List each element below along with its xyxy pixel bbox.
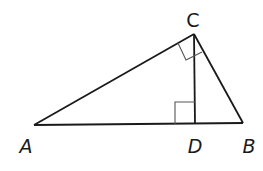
segment-ab — [34, 123, 243, 125]
segment-ac — [34, 34, 194, 125]
vertex-label-c: C — [186, 11, 199, 30]
right-angle-marker-c — [178, 43, 202, 60]
right-angle-marker-d — [175, 102, 195, 124]
triangle-diagram — [0, 0, 263, 171]
vertex-label-a: A — [20, 137, 33, 156]
vertex-label-d: D — [188, 137, 203, 156]
vertex-label-b: B — [242, 137, 255, 156]
segment-cb — [194, 34, 243, 123]
altitude-cd — [194, 34, 195, 124]
